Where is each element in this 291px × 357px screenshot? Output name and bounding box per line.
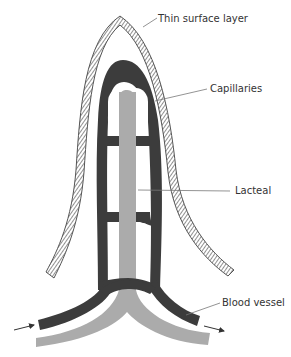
leader-surface-layer	[143, 18, 157, 27]
label-surface-layer: Thin surface layer	[157, 13, 249, 24]
villus-diagram: Thin surface layer Capillaries Lacteal B…	[0, 0, 291, 357]
leader-blood-vessel	[186, 303, 220, 315]
capillaries	[97, 60, 162, 302]
flow-arrow-in	[14, 325, 34, 330]
label-blood-vessel: Blood vessel	[222, 297, 285, 308]
label-capillaries: Capillaries	[210, 83, 262, 94]
flow-arrow-out	[204, 326, 224, 331]
label-lacteal: Lacteal	[235, 185, 271, 196]
